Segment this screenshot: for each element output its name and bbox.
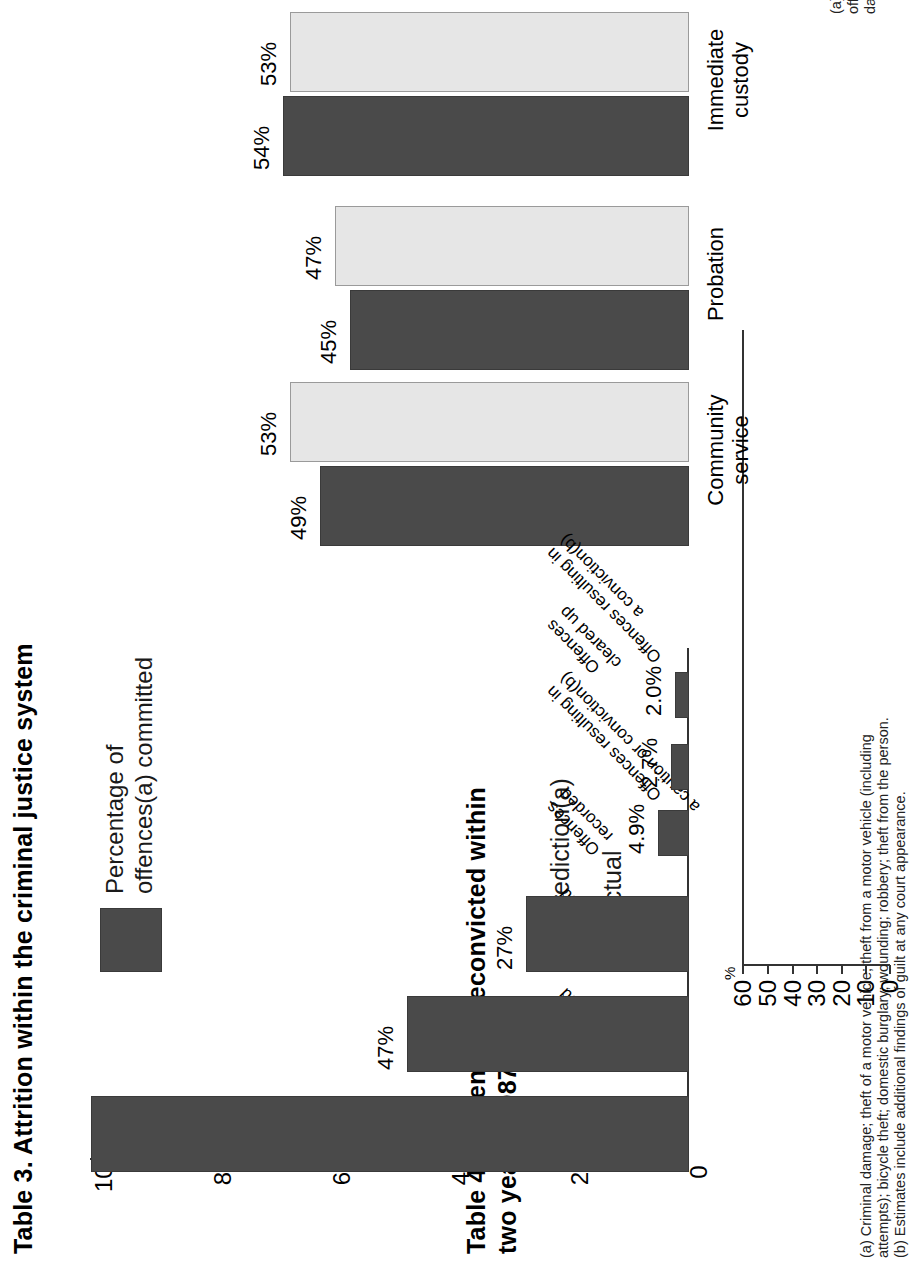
table-3-legend: Percentage of offences(a) committed	[100, 657, 162, 972]
tick-30	[816, 965, 818, 974]
tick-label-60: 60	[731, 980, 755, 1040]
bar-actual-1	[350, 290, 689, 370]
category-label-table4-1: Probation	[703, 174, 728, 374]
bar-value-label-table3-2: 27%	[492, 926, 518, 970]
category-label-table4-2: Community service	[703, 350, 753, 550]
tick-50	[767, 965, 769, 974]
bar-value-label-actual-1: 45%	[316, 320, 342, 364]
legend-swatch-offences-icon	[100, 908, 162, 972]
legend-label-offences: Percentage of offences(a) committed	[100, 657, 158, 894]
bar-actual-2	[320, 466, 689, 546]
figure-table-4: Table 4. Percentage reconvicted within t…	[453, 0, 906, 1272]
bar-actual-0	[283, 96, 689, 176]
bar-prediction-0	[290, 12, 689, 92]
table-3-note: (a) Criminal damage; theft of a motor ve…	[858, 658, 909, 1258]
tick-label-40: 40	[781, 980, 805, 1040]
table-3-title: Table 3. Attrition within the criminal j…	[8, 554, 39, 1254]
bar-value-label-table3-3: 4.9%	[624, 804, 650, 854]
bar-value-label-prediction-2: 53%	[256, 412, 282, 456]
bar-value-label-prediction-0: 53%	[256, 42, 282, 86]
tick-40	[792, 965, 794, 974]
bar-value-label-actual-2: 49%	[286, 496, 312, 540]
bar-prediction-2	[290, 382, 689, 462]
table-4-note: (a) Prediction rates were calculated fro…	[828, 0, 879, 14]
bar-prediction-1	[335, 206, 689, 286]
figure-table-3: Table 3. Attrition within the criminal j…	[0, 0, 453, 1272]
bar-value-label-prediction-1: 47%	[301, 236, 327, 280]
tick-label-20: 20	[830, 980, 854, 1040]
category-label-table4-0: Immediate custody	[703, 0, 753, 180]
tick-60	[742, 965, 744, 974]
table-4-plot: % 60 50 40 30 20 10 0	[453, 0, 906, 1272]
tick-20	[841, 965, 843, 974]
bar-value-label-actual-0: 54%	[249, 126, 275, 170]
tick-label-30: 30	[805, 980, 829, 1040]
table-4-axis-unit: %	[721, 967, 738, 980]
bar-value-label-table3-1: 47%	[373, 1026, 399, 1070]
tick-label-50: 50	[756, 980, 780, 1040]
bar-table3-0	[91, 1096, 689, 1172]
